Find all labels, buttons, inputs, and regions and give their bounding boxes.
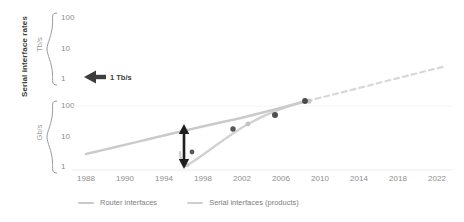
legend-item-router-interfaces: Router interfaces <box>78 198 157 207</box>
legend-swatch-router-interfaces <box>78 202 94 204</box>
plot-area <box>0 0 464 222</box>
data-point-router-2002 <box>230 126 235 131</box>
data-point-router-1998 <box>190 150 195 155</box>
chart-legend: Router interfaces Serial interfaces (pro… <box>78 198 299 207</box>
series-router-interfaces-line <box>86 101 307 154</box>
legend-swatch-serial-interfaces <box>187 202 203 204</box>
series-serial-interfaces-line <box>186 101 306 166</box>
data-point-serial-2002 <box>246 122 251 127</box>
series-router-interfaces-extrapolation <box>307 66 446 101</box>
legend-item-serial-interfaces: Serial interfaces (products) <box>187 198 299 207</box>
chart-canvas: Serial interface rates Tb/s Gb/s 100 10 … <box>0 0 464 222</box>
data-point-router-2006 <box>272 112 278 118</box>
legend-label-router-interfaces: Router interfaces <box>100 198 157 207</box>
one-tbs-annotation-label: 1 Tb/s <box>110 73 132 82</box>
data-point-router-2010 <box>302 98 308 104</box>
one-tbs-arrow-icon <box>84 71 106 84</box>
legend-label-serial-interfaces: Serial interfaces (products) <box>209 198 299 207</box>
